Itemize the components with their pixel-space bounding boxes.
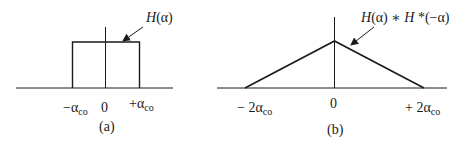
- tick-label-neg-alpha-co: −αco: [63, 100, 88, 117]
- tick-label-pos-alpha-co: +αco: [129, 96, 154, 113]
- caption-a: (a): [99, 119, 115, 135]
- tick-label-pos-2alpha-co: + 2αco: [405, 100, 440, 117]
- panel-a: H(α) −αco 0 +αco (a): [16, 10, 173, 135]
- curve-label-a: H(α): [145, 10, 173, 26]
- curve-label-b: H(α) ∗ H *(−α): [360, 10, 450, 26]
- panel-b: H(α) ∗ H *(−α) − 2αco 0 + 2αco (b): [217, 10, 450, 138]
- tick-label-zero-b: 0: [330, 96, 337, 111]
- label-arrow-b: [351, 27, 374, 45]
- caption-b: (b): [327, 122, 344, 138]
- tick-label-neg-2alpha-co: − 2αco: [237, 100, 272, 117]
- label-arrow-a: [123, 27, 143, 41]
- tick-label-zero-a: 0: [101, 100, 108, 115]
